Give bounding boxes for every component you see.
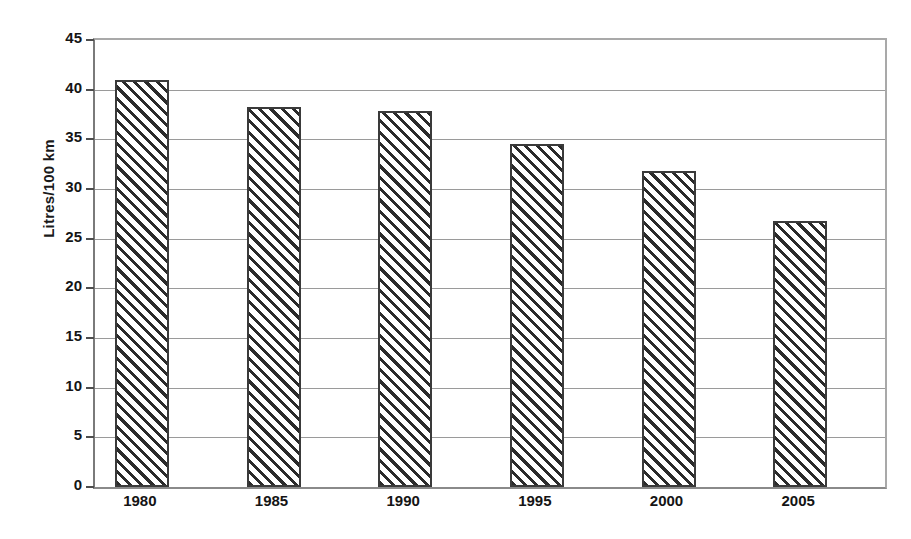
bar bbox=[378, 111, 432, 487]
y-axis-tick-label: 45 bbox=[36, 30, 82, 45]
y-axis-tick-mark bbox=[86, 287, 94, 289]
x-axis-tick-label: 1985 bbox=[227, 493, 317, 508]
y-axis-tick-mark bbox=[86, 486, 94, 488]
y-axis-tick-label: 40 bbox=[36, 80, 82, 95]
y-axis-tick-label: 35 bbox=[36, 129, 82, 144]
y-axis-tick-labels: 454035302520151050 bbox=[30, 38, 82, 485]
bar bbox=[773, 221, 827, 487]
y-axis-tick-mark bbox=[86, 188, 94, 190]
y-axis-tick-mark bbox=[86, 387, 94, 389]
y-axis-tick-label: 5 bbox=[36, 427, 82, 442]
x-axis-tick-label: 2005 bbox=[753, 493, 843, 508]
gridline bbox=[95, 189, 885, 190]
gridline bbox=[95, 239, 885, 240]
y-axis-tick-mark bbox=[86, 337, 94, 339]
gridline bbox=[95, 139, 885, 140]
y-axis-tick-label: 10 bbox=[36, 378, 82, 393]
x-axis-tick-label: 2000 bbox=[622, 493, 712, 508]
y-axis-tick-mark bbox=[86, 39, 94, 41]
y-axis-tick-mark bbox=[86, 89, 94, 91]
gridline bbox=[95, 388, 885, 389]
x-axis-tick-label: 1995 bbox=[490, 493, 580, 508]
y-axis-tick-mark bbox=[86, 138, 94, 140]
bar bbox=[115, 80, 169, 487]
bar bbox=[642, 171, 696, 487]
y-axis-tick-label: 15 bbox=[36, 328, 82, 343]
y-axis-tick-label: 30 bbox=[36, 179, 82, 194]
y-axis-tick-mark bbox=[86, 436, 94, 438]
gridline bbox=[95, 338, 885, 339]
y-axis-tick-label: 20 bbox=[36, 278, 82, 293]
gridline bbox=[95, 90, 885, 91]
y-axis-tick-label: 25 bbox=[36, 229, 82, 244]
gridline bbox=[95, 288, 885, 289]
x-axis-tick-labels: 198019851990199520002005 bbox=[93, 493, 883, 517]
gridline bbox=[95, 437, 885, 438]
bar bbox=[247, 107, 301, 487]
y-axis-tick-mark bbox=[86, 238, 94, 240]
x-axis-tick-label: 1990 bbox=[358, 493, 448, 508]
plot-area bbox=[93, 38, 887, 489]
bar bbox=[510, 144, 564, 487]
bar-chart-figure: Litres/100 km 454035302520151050 1980198… bbox=[0, 0, 911, 539]
y-axis-tick-label: 0 bbox=[36, 477, 82, 492]
x-axis-tick-label: 1980 bbox=[95, 493, 185, 508]
